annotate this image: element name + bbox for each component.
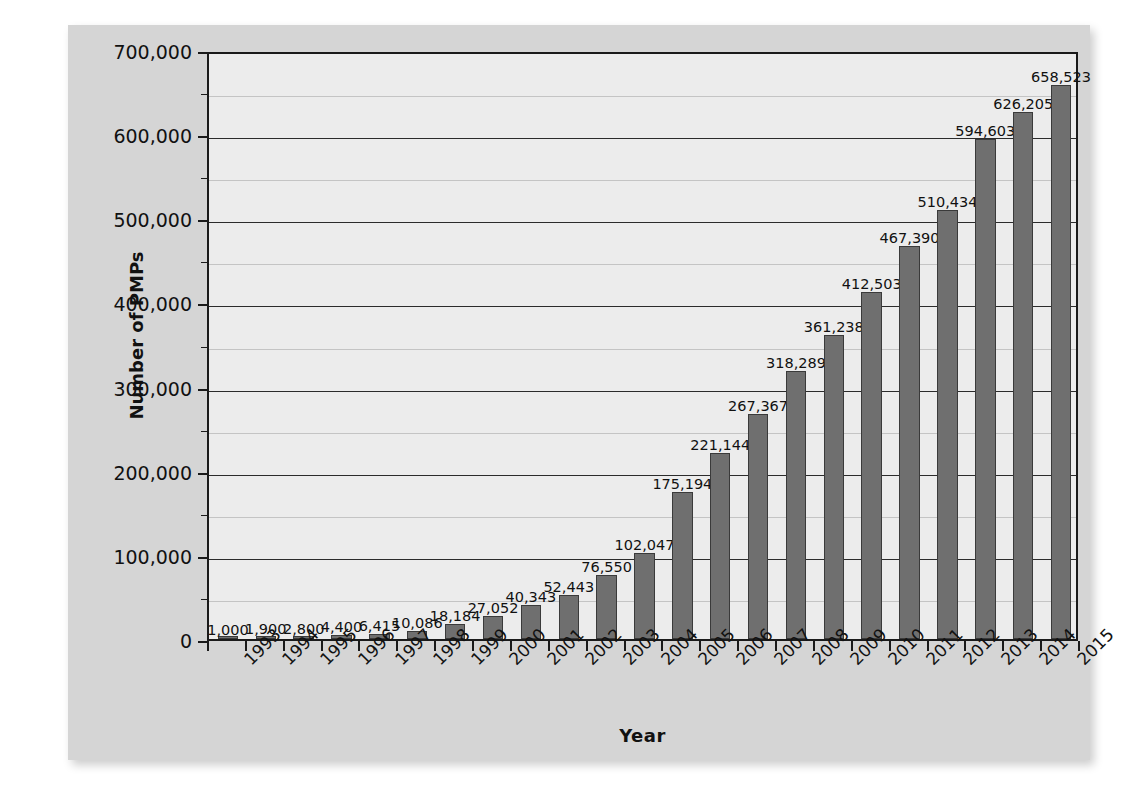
x-axis-tick-label: 1997 (391, 655, 405, 669)
y-axis-tick (198, 304, 207, 306)
y-axis-tick (198, 136, 207, 138)
x-axis-tick-label: 2015 (1073, 655, 1087, 669)
y-axis-tick-label: 200,000 (113, 462, 192, 484)
bar-value-label: 467,390 (880, 230, 940, 246)
x-axis-tick-label: 2014 (1035, 655, 1049, 669)
y-axis-tick (198, 220, 207, 222)
y-axis-tick-label: 600,000 (113, 125, 192, 147)
bar-value-label: 626,205 (993, 96, 1053, 112)
y-axis-tick-label: 300,000 (113, 378, 192, 400)
y-axis-tick (198, 557, 207, 559)
bar (786, 371, 806, 639)
x-axis-tick-label: 2003 (619, 655, 633, 669)
bar (937, 210, 957, 639)
y-axis-tick (198, 473, 207, 475)
bar-value-label: 1,000 (207, 622, 249, 638)
y-axis-tick-label: 100,000 (113, 546, 192, 568)
chart-panel: Number of PMPs 0100,000200,000300,000400… (68, 25, 1090, 760)
x-axis-tick-label: 1998 (429, 655, 443, 669)
x-axis-tick-label: 2009 (846, 655, 860, 669)
y-axis-tick-label: 0 (180, 630, 192, 652)
x-axis-tick-label: 2000 (505, 655, 519, 669)
bar-value-label: 102,047 (615, 537, 675, 553)
plot-area: 1,0001,9002,8004,4006,41510,08618,18427,… (207, 52, 1078, 641)
y-axis-tick-label: 400,000 (113, 293, 192, 315)
chart-screenshot: Number of PMPs 0100,000200,000300,000400… (0, 0, 1142, 789)
x-axis-tick-label: 2004 (657, 655, 671, 669)
bar (975, 139, 995, 639)
gridline-major (209, 138, 1076, 139)
x-axis-tick (207, 641, 209, 651)
bar (748, 414, 768, 639)
gridline-minor (209, 96, 1076, 97)
x-axis-title: Year (207, 725, 1078, 746)
x-axis-tick-label: 1994 (278, 655, 292, 669)
bar-value-label: 594,603 (955, 123, 1015, 139)
x-axis-tick-label: 2011 (922, 655, 936, 669)
bar (824, 335, 844, 639)
bar (899, 246, 919, 639)
bar (672, 492, 692, 639)
bar-value-label: 221,144 (690, 437, 750, 453)
x-axis-tick-label: 2008 (808, 655, 822, 669)
x-axis-tick-label: 2013 (997, 655, 1011, 669)
bar-value-label: 318,289 (766, 355, 826, 371)
bar-value-label: 267,367 (728, 398, 788, 414)
bar-value-label: 412,503 (842, 276, 902, 292)
y-axis-tick (198, 52, 207, 54)
bar-value-label: 510,434 (917, 194, 977, 210)
y-axis-tick (198, 641, 207, 643)
bar (1013, 112, 1033, 639)
x-axis-tick-label: 2001 (543, 655, 557, 669)
x-axis-tick-label: 2010 (884, 655, 898, 669)
x-axis-tick-label: 1999 (467, 655, 481, 669)
y-axis-tick-label: 700,000 (113, 41, 192, 63)
bar-value-label: 361,238 (804, 319, 864, 335)
bar-value-label: 76,550 (581, 559, 632, 575)
x-axis-tick-label: 2006 (732, 655, 746, 669)
bar-value-label: 175,194 (652, 476, 712, 492)
x-axis-tick-label: 2012 (959, 655, 973, 669)
x-axis-tick-label: 1993 (240, 655, 254, 669)
bar (861, 292, 881, 639)
bar-value-label: 52,443 (543, 579, 594, 595)
bar (1051, 85, 1071, 639)
x-axis-tick-label: 2002 (581, 655, 595, 669)
x-axis-tick-label: 2007 (770, 655, 784, 669)
gridline-minor (209, 180, 1076, 181)
x-axis-tick-label: 2005 (694, 655, 708, 669)
y-axis-title: Number of PMPs (126, 226, 147, 446)
y-axis-tick (198, 389, 207, 391)
bar (710, 453, 730, 639)
y-axis-tick-label: 500,000 (113, 209, 192, 231)
x-axis-tick-label: 1995 (316, 655, 330, 669)
bar-value-label: 658,523 (1031, 69, 1091, 85)
x-axis-tick-label: 1996 (354, 655, 368, 669)
